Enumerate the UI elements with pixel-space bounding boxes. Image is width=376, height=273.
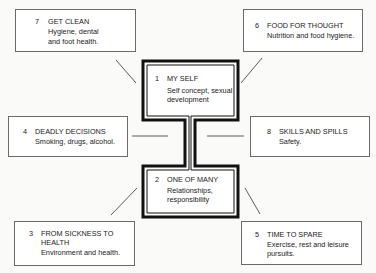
central-box-one-of-many: 2 ONE OF MANY Relationships, responsibil… [149, 171, 233, 211]
box-number: 2 [155, 175, 159, 185]
topic-box-from-sickness-to-health: 3 FROM SICKNESS TO HEALTH Environment an… [14, 221, 135, 266]
box-number: 7 [35, 17, 39, 27]
box-desc-line: and foot health. [48, 37, 98, 47]
topic-box-deadly-decisions: 4 DEADLY DECISIONS Smoking, drugs, alcoh… [8, 116, 128, 157]
box-number: 6 [255, 21, 259, 31]
box-number: 4 [23, 127, 27, 137]
box-title: ONE OF MANY [167, 175, 218, 185]
box-desc-line: Environment and health. [41, 248, 120, 258]
box-desc-line: development [167, 95, 209, 105]
box-desc-line: responsibility [167, 195, 209, 205]
box-number: 5 [255, 230, 259, 240]
box-number: 3 [29, 229, 33, 239]
box-title-line: HEALTH [41, 238, 69, 248]
box-desc-line: Nutrition and food hygiene. [267, 31, 354, 41]
topic-box-time-to-spare: 5 TIME TO SPARE Exercise, rest and leisu… [241, 221, 362, 265]
box-title: MY SELF [167, 74, 198, 84]
box-title: GET CLEAN [48, 17, 89, 27]
central-box-my-self: 1 MY SELF Self concept, sexual developme… [149, 67, 233, 115]
box-title: SKILLS AND SPILLS [279, 127, 348, 137]
topic-box-get-clean: 7 GET CLEAN Hygiene, dental and foot hea… [15, 9, 136, 52]
box-desc-line: Hygiene, dental [48, 27, 99, 37]
box-desc-line: pursuits. [267, 249, 295, 259]
box-title: FOOD FOR THOUGHT [267, 21, 343, 31]
box-number: 8 [267, 127, 271, 137]
box-desc-line: Smoking, drugs, alcohol. [35, 137, 115, 147]
box-title: DEADLY DECISIONS [35, 127, 106, 137]
topic-box-food-for-thought: 6 FOOD FOR THOUGHT Nutrition and food hy… [243, 9, 363, 52]
topic-box-skills-and-spills: 8 SKILLS AND SPILLS Safety. [250, 116, 370, 157]
box-number: 1 [155, 74, 159, 84]
box-desc-line: Safety. [279, 137, 301, 147]
box-title: TIME TO SPARE [267, 230, 323, 240]
